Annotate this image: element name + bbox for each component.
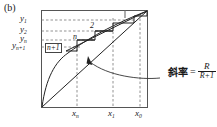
y-axis-label-yn1: yn+1 [12,41,25,50]
fraction-numerator: R [202,62,212,71]
slope-fraction: R R+1 [198,62,216,81]
equals-sign: = [190,66,196,77]
y-axis-label-y1: y1 [20,14,27,23]
step-label-n-plus-1: n+1 [45,43,62,53]
fraction-denominator: R+1 [198,72,216,80]
figure-panel-b: (b) y1 y2 yn yn+1 [0,0,217,127]
callout-arrowhead-icon [87,56,93,65]
step-label-n: n [73,33,77,41]
x-axis-label-x1: x1 [108,109,115,118]
x-axis-label-xn: xn [72,109,79,118]
step-label-2: 2 [90,22,94,30]
callout-leader-line [90,62,160,78]
slope-annotation: 斜率 = R R+1 [168,62,216,81]
x-axis-label-x0: x0 [135,109,142,118]
slope-word: 斜率 [168,64,188,79]
identity-diagonal-line [42,11,147,107]
